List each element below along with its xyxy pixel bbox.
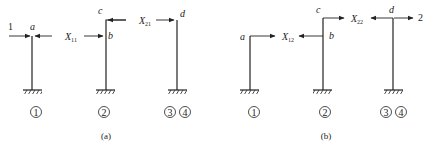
svg-text:1: 1 (34, 107, 39, 118)
unit-load-arrow: 1 (8, 21, 30, 36)
member-number-2: 2 (99, 107, 110, 118)
member-number-3: 3 (165, 107, 176, 118)
unknown-x21-label: X21 (138, 15, 151, 27)
panel-a: 1 a X11 b c X21 d 1 (8, 5, 191, 141)
member-number-4: 4 (396, 107, 407, 118)
node-c-label: c (316, 4, 321, 15)
node-a-label: a (240, 31, 245, 42)
node-d-label: d (180, 8, 186, 19)
node-b-label: b (329, 30, 334, 41)
unknown-x12-label: X12 (281, 31, 294, 43)
node-d-label: d (389, 4, 395, 15)
column-3-4 (384, 18, 403, 94)
unknown-x11-label: X11 (64, 31, 77, 43)
svg-text:2: 2 (102, 107, 107, 118)
column-1 (240, 36, 259, 94)
column-1 (23, 36, 42, 94)
column-3-4 (168, 20, 187, 94)
node-a-label: a (30, 21, 35, 32)
unit-load-label: 1 (8, 21, 13, 32)
caption-a: (a) (101, 131, 111, 141)
node-c-label: c (98, 5, 103, 16)
force-method-diagram: 1 a X11 b c X21 d 1 (0, 0, 433, 146)
member-number-1: 1 (249, 107, 260, 118)
svg-text:3: 3 (168, 107, 173, 118)
member-number-2: 2 (320, 107, 331, 118)
svg-text:1: 1 (252, 107, 257, 118)
svg-text:4: 4 (399, 107, 404, 118)
member-number-3: 3 (381, 107, 392, 118)
svg-text:3: 3 (384, 107, 389, 118)
member-number-1: 1 (31, 107, 42, 118)
panel-b: a X12 b c X22 d 2 1 (240, 4, 423, 141)
unit-load-arrow: 2 (394, 12, 423, 23)
node-b-label: b (108, 30, 113, 41)
unit-load-label: 2 (418, 12, 423, 23)
svg-text:4: 4 (183, 107, 188, 118)
member-number-4: 4 (180, 107, 191, 118)
unknown-x22-label: X22 (350, 13, 363, 25)
caption-b: (b) (321, 131, 332, 141)
svg-text:2: 2 (323, 107, 328, 118)
